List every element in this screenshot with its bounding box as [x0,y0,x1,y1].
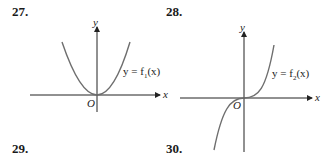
y-axis-label: y [92,16,98,28]
graph-27: y x O y = f1(x) [30,16,168,112]
function-label-f2: y = f2(x) [272,67,310,82]
x-axis-label: x [162,88,168,100]
graphs-canvas: y x O y = f1(x) y x O y = f2(x) [0,0,335,164]
parabola-curve [62,42,130,95]
origin-label: O [233,99,241,111]
function-label-f1: y = f1(x) [123,65,161,80]
origin-label: O [87,97,95,109]
graph-28: y x O y = f2(x) [180,21,320,152]
y-axis-label: y [239,21,245,33]
x-axis-label: x [314,91,320,103]
